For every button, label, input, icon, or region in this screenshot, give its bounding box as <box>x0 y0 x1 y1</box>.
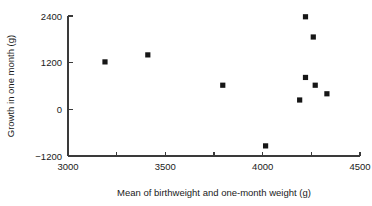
data-point-marker <box>313 83 318 88</box>
data-point-marker <box>297 97 302 102</box>
y-tick-label: 1200 <box>41 57 62 68</box>
y-axis-tick-labels: −1200012002400 <box>35 11 62 162</box>
y-tick-label: 2400 <box>41 11 62 22</box>
y-axis-title: Growth in one month (g) <box>5 35 16 137</box>
data-point-marker <box>102 59 107 64</box>
data-point-marker <box>263 143 268 148</box>
data-point-marker <box>303 75 308 80</box>
data-point-marker <box>220 83 225 88</box>
x-tick-label: 3000 <box>57 161 78 172</box>
data-point-marker <box>303 14 308 19</box>
y-tick-label: −1200 <box>35 151 62 162</box>
data-point-marker <box>324 91 329 96</box>
x-tick-label: 4500 <box>349 161 370 172</box>
x-axis-tick-labels: 3000350040004500 <box>57 161 370 172</box>
data-point-marker <box>145 52 150 57</box>
x-tick-label: 4000 <box>252 161 273 172</box>
data-point-marker <box>311 34 316 39</box>
scatter-plot-figure: 3000350040004500 −1200012002400 Mean of … <box>0 0 372 206</box>
x-tick-label: 3500 <box>155 161 176 172</box>
data-points <box>102 14 329 148</box>
y-tick-label: 0 <box>57 104 62 115</box>
x-axis-title: Mean of birthweight and one-month weight… <box>117 187 311 198</box>
plot-canvas: 3000350040004500 −1200012002400 Mean of … <box>0 0 372 206</box>
